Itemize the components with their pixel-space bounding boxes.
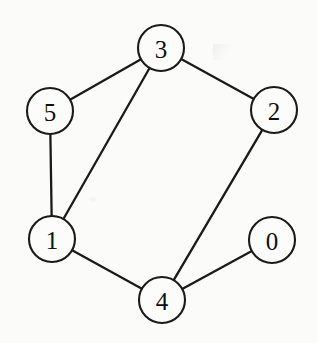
graph-edge-1-4 xyxy=(72,250,142,289)
graph-edge-4-0 xyxy=(182,251,252,289)
edges-layer xyxy=(50,59,262,289)
graph-edge-3-2 xyxy=(181,59,254,99)
graph-diagram: 012345 xyxy=(0,0,317,343)
graph-node-4[interactable]: 4 xyxy=(139,277,185,323)
node-label-0: 0 xyxy=(266,228,279,255)
graph-canvas: 012345 xyxy=(0,0,317,343)
graph-node-5[interactable]: 5 xyxy=(27,88,73,134)
graph-edge-4-2 xyxy=(174,130,263,280)
node-label-1: 1 xyxy=(46,227,59,254)
graph-node-0[interactable]: 0 xyxy=(249,217,295,263)
nodes-layer: 012345 xyxy=(27,25,297,323)
node-label-2: 2 xyxy=(268,98,281,125)
graph-node-3[interactable]: 3 xyxy=(138,25,184,71)
node-label-3: 3 xyxy=(155,36,168,63)
graph-edge-5-3 xyxy=(70,59,141,99)
graph-node-1[interactable]: 1 xyxy=(29,216,75,262)
graph-edge-3-1 xyxy=(63,68,149,219)
graph-node-2[interactable]: 2 xyxy=(251,87,297,133)
node-label-5: 5 xyxy=(44,99,57,126)
graph-edge-5-1 xyxy=(50,134,51,216)
node-label-4: 4 xyxy=(156,288,169,315)
